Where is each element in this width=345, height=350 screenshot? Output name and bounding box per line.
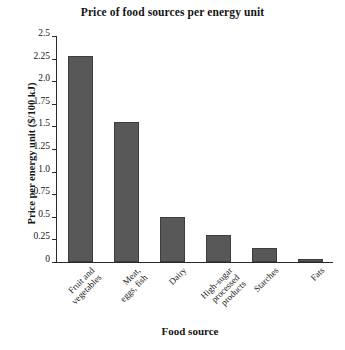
y-tick-label: 1.5 xyxy=(38,118,50,128)
y-tick-mark xyxy=(52,81,56,82)
bar xyxy=(114,122,139,262)
y-tick-label: 1.75 xyxy=(33,96,50,106)
bar xyxy=(252,248,277,262)
y-tick-mark xyxy=(52,172,56,173)
x-axis-title: Food source xyxy=(45,325,335,337)
bar xyxy=(68,56,93,262)
y-tick-label: 0.75 xyxy=(33,186,50,196)
y-tick-mark xyxy=(52,126,56,127)
chart-title: Price of food sources per energy unit xyxy=(0,6,345,18)
y-tick-label: 2.25 xyxy=(33,51,50,61)
y-tick-mark xyxy=(52,239,56,240)
y-tick-mark xyxy=(52,217,56,218)
bar xyxy=(206,235,231,262)
y-axis-tick: 1.0 xyxy=(0,172,56,173)
y-axis-tick: 1.75 xyxy=(0,104,56,105)
y-tick-mark xyxy=(52,149,56,150)
y-tick-label: 0 xyxy=(45,254,50,264)
y-axis-tick: 0 xyxy=(0,262,56,263)
y-axis-tick: 0.5 xyxy=(0,217,56,218)
y-tick-mark xyxy=(52,104,56,105)
y-tick-mark xyxy=(52,194,56,195)
x-axis-line xyxy=(56,262,333,263)
y-tick-label: 2.0 xyxy=(38,73,50,83)
y-axis-tick: 1.5 xyxy=(0,126,56,127)
y-axis-tick: 1.25 xyxy=(0,149,56,150)
y-axis-tick: 0.25 xyxy=(0,239,56,240)
bar xyxy=(298,259,323,262)
y-axis-tick: 2.25 xyxy=(0,59,56,60)
y-tick-label: 1.0 xyxy=(38,164,50,174)
y-tick-label: 0.25 xyxy=(33,231,50,241)
y-tick-mark xyxy=(52,36,56,37)
y-tick-label: 0.5 xyxy=(38,209,50,219)
y-axis-tick: 2.0 xyxy=(0,81,56,82)
y-tick-label: 1.25 xyxy=(33,141,50,151)
y-axis-tick: 2.5 xyxy=(0,36,56,37)
y-tick-label: 2.5 xyxy=(38,28,50,38)
plot-area xyxy=(57,36,333,262)
bar-chart-figure: Price of food sources per energy unit Pr… xyxy=(0,0,345,350)
y-tick-mark xyxy=(52,59,56,60)
y-axis-tick: 0.75 xyxy=(0,194,56,195)
y-tick-mark xyxy=(52,262,56,263)
bar xyxy=(160,217,185,262)
